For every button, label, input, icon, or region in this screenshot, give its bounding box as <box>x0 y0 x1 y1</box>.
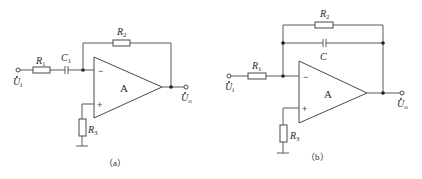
label-amp-b: A <box>324 88 332 100</box>
junction-dot-cap-right-b <box>381 41 385 45</box>
label-r2-b: R2 <box>319 8 330 21</box>
circuit-a: R1 C1 R2 R3 A − + Ui Uo （a） <box>13 26 192 168</box>
label-ui-b: Ui <box>225 81 234 94</box>
label-uo-b: Uo <box>397 98 408 111</box>
resistor-r2-a <box>113 40 130 46</box>
output-terminal-a <box>184 85 188 89</box>
circuit-figure: R1 C1 R2 R3 A − + Ui Uo （a） <box>0 0 422 179</box>
label-r1-a: R1 <box>35 55 46 68</box>
op-amp-a <box>94 57 162 118</box>
capacitor-c1-a <box>65 66 68 74</box>
circuit-b: R1 R2 C R3 A − + Ui Uo （b） <box>225 8 408 162</box>
op-amp-b <box>299 61 367 123</box>
label-c-b: C <box>320 51 327 62</box>
label-r1-b: R1 <box>251 60 262 73</box>
minus-sign-b: − <box>303 72 308 82</box>
label-r3-a: R3 <box>87 124 98 137</box>
capacitor-c-b <box>323 39 326 47</box>
output-terminal-b <box>400 91 404 95</box>
resistor-r3-b <box>280 125 287 142</box>
label-uo-a: Uo <box>181 92 192 105</box>
label-r2-a: R2 <box>116 26 127 39</box>
label-amp-a: A <box>120 82 128 94</box>
caption-a: （a） <box>104 158 126 168</box>
junction-dot-out-a <box>169 85 173 89</box>
resistor-r3-a <box>79 119 86 136</box>
noninv-wire-a <box>82 104 94 119</box>
caption-b: （b） <box>306 152 329 162</box>
input-terminal-b <box>227 74 231 78</box>
junction-dot-out-b <box>381 91 385 95</box>
label-c1-a: C1 <box>61 52 72 65</box>
resistor-r2-b <box>315 22 333 28</box>
junction-dot-cap-left-b <box>281 41 285 45</box>
label-r3-b: R3 <box>289 130 300 143</box>
resistor-r1-b <box>248 73 266 79</box>
input-terminal-a <box>16 68 20 72</box>
noninv-wire-b <box>283 108 299 125</box>
plus-sign-b: + <box>302 104 307 114</box>
label-ui-a: Ui <box>13 76 22 89</box>
minus-sign-a: − <box>98 66 103 76</box>
plus-sign-a: + <box>97 100 102 110</box>
